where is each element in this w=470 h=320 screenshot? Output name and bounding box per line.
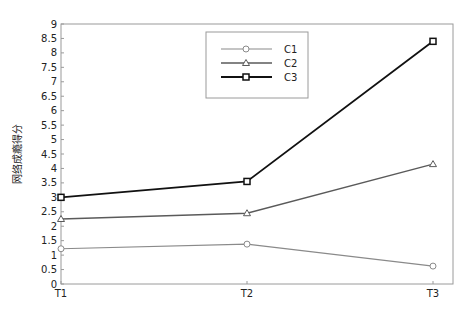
x-tick-label: T3 xyxy=(426,288,439,299)
legend-label: C1 xyxy=(284,44,297,55)
legend-label: C2 xyxy=(284,58,297,69)
y-tick-label: 6 xyxy=(51,105,57,116)
y-tick-label: 8 xyxy=(51,47,57,58)
y-tick-label: 7.5 xyxy=(41,62,57,73)
y-tick-label: 5.5 xyxy=(41,120,57,131)
x-tick-label: T2 xyxy=(240,288,253,299)
square-marker-icon xyxy=(243,74,249,80)
circle-marker-icon xyxy=(58,246,64,252)
y-axis-label: 网络成瘾得分 xyxy=(11,124,23,184)
line-chart: 00.511.522.533.544.555.566.577.588.59 T1… xyxy=(0,0,470,320)
y-tick-label: 6.5 xyxy=(41,91,57,102)
circle-marker-icon xyxy=(243,46,249,52)
square-marker-icon xyxy=(58,194,64,200)
series-c1 xyxy=(58,241,436,269)
y-tick-label: 1.5 xyxy=(41,235,57,246)
x-tick-label: T1 xyxy=(54,288,67,299)
circle-marker-icon xyxy=(430,263,436,269)
y-tick-label: 1 xyxy=(51,250,57,261)
legend: C1C2C3 xyxy=(206,32,308,98)
y-tick-label: 5 xyxy=(51,134,57,145)
circle-marker-icon xyxy=(244,241,250,247)
series-c2 xyxy=(58,161,437,222)
y-tick-label: 4 xyxy=(51,163,57,174)
y-tick-label: 2 xyxy=(51,221,57,232)
y-tick-label: 7 xyxy=(51,76,57,87)
y-tick-label: 0.5 xyxy=(41,264,57,275)
y-tick-label: 3 xyxy=(51,192,57,203)
square-marker-icon xyxy=(244,178,250,184)
y-tick-label: 9 xyxy=(51,19,57,30)
y-tick-label: 4.5 xyxy=(41,149,57,160)
square-marker-icon xyxy=(430,38,436,44)
y-tick-label: 8.5 xyxy=(41,33,57,44)
y-tick-label: 3.5 xyxy=(41,177,57,188)
y-tick-label: 2.5 xyxy=(41,206,57,217)
triangle-marker-icon xyxy=(430,161,437,167)
legend-label: C3 xyxy=(284,72,297,83)
